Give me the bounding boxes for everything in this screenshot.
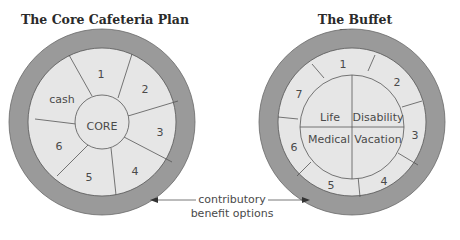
segment-5: 5: [86, 171, 93, 184]
annotation-line1: contributory: [196, 193, 268, 206]
segment-cash: cash: [49, 93, 75, 106]
quadrant-life: Life: [320, 111, 340, 124]
segment-3: 3: [157, 126, 164, 139]
quadrant-disability: Disability: [353, 111, 404, 124]
segment-4: 4: [381, 175, 388, 188]
segment-3: 3: [412, 129, 419, 142]
segment-2: 2: [394, 76, 401, 89]
segment-4: 4: [132, 165, 139, 178]
quadrant-vacation: Vacation: [354, 133, 401, 146]
buffet-plan-diagram: Life Disability Medical Vacation 1 2 3 4…: [259, 29, 445, 215]
segment-6: 6: [56, 140, 63, 153]
core-label: CORE: [87, 120, 118, 133]
quadrant-medical: Medical: [308, 133, 350, 146]
segment-2: 2: [142, 83, 149, 96]
segment-1: 1: [340, 58, 347, 71]
segment-1: 1: [98, 68, 105, 81]
core-cafeteria-diagram: CORE 1 2 3 4 5 6 cash: [9, 29, 195, 215]
segment-5: 5: [328, 179, 335, 192]
segment-6: 6: [291, 141, 298, 154]
annotation-line2: benefit options: [180, 207, 284, 220]
segment-7: 7: [296, 88, 303, 101]
